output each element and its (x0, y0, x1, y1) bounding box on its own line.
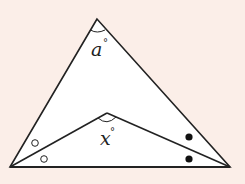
diagram-canvas: a ° x ° (0, 0, 245, 184)
inner-angle-degree: ° (110, 126, 115, 137)
apex-angle-degree: ° (103, 37, 108, 48)
filled-dot-marker-icon (185, 155, 192, 162)
filled-dot-marker-icon (185, 133, 192, 140)
outer-triangle (10, 19, 230, 167)
triangle-diagram: a ° x ° (0, 0, 245, 184)
apex-angle-variable: a (91, 38, 102, 60)
